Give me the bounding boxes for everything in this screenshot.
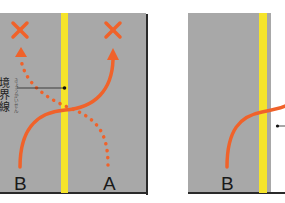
center-line	[61, 13, 68, 193]
panel-border-right	[146, 14, 148, 195]
label-b-left: B	[14, 174, 27, 193]
road-surface	[0, 13, 146, 193]
label-b-right: B	[221, 174, 234, 193]
road-diagram	[0, 0, 285, 203]
shoulder-strip	[271, 13, 285, 192]
boundary-line-ruby: きょうかいせん	[12, 78, 17, 113]
center-line	[259, 13, 267, 193]
road-surface	[188, 13, 285, 193]
panel-border-bottom	[188, 192, 285, 194]
right-road-panel	[188, 13, 285, 194]
pointer-dot	[276, 124, 279, 127]
label-a-left: A	[103, 174, 116, 193]
boundary-line-label: 境界線	[0, 77, 9, 113]
left-road-panel	[0, 13, 148, 195]
pointer-dot	[63, 86, 67, 90]
